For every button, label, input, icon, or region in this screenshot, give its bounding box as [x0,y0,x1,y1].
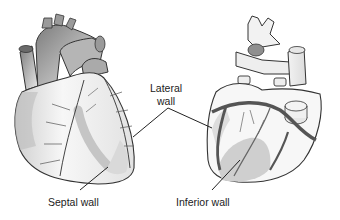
posterior-heart [207,16,321,182]
inferior-wall-label: Inferior wall [176,196,230,209]
lateral-wall-label-line2: wall [150,95,182,108]
lateral-wall-label-line1: Lateral [150,82,182,95]
lateral-leader-line [133,108,212,137]
lateral-wall-label: Lateral wall [150,82,182,108]
heart-diagram [0,0,340,220]
septal-wall-label: Septal wall [48,196,99,209]
anterior-heart [15,14,134,184]
